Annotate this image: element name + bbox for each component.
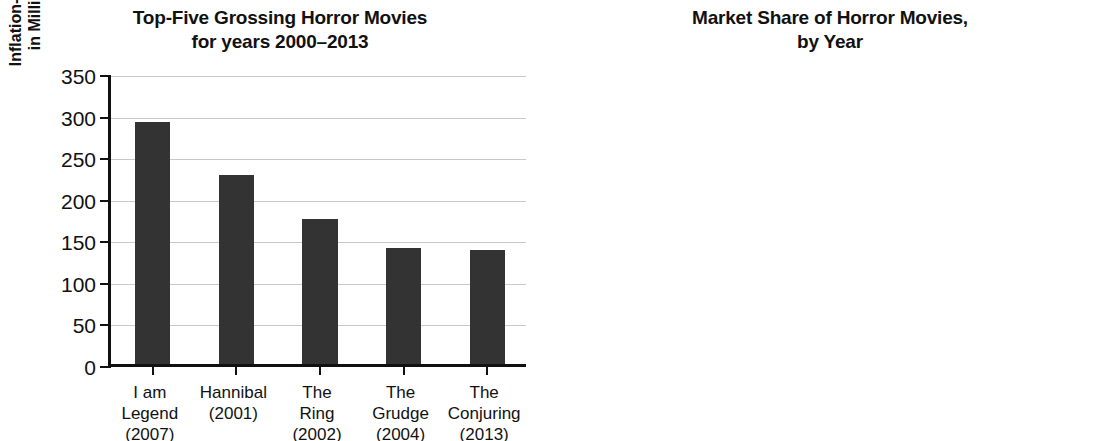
- y-axis-tick-label: 350: [61, 66, 96, 87]
- bar: [386, 248, 421, 364]
- left-chart-y-axis-label: Inflation-adjusted Gross, in Millions of…: [6, 0, 46, 116]
- gridline: [111, 76, 526, 77]
- gridline: [111, 201, 526, 202]
- y-axis-tick-label: 150: [61, 232, 96, 253]
- right-chart-title: Market Share of Horror Movies, by Year: [580, 6, 1080, 54]
- y-axis-tick: [100, 324, 111, 326]
- x-axis-tick: [403, 364, 405, 375]
- x-axis-tick: [319, 364, 321, 375]
- bar: [470, 250, 505, 364]
- y-axis-tick: [100, 366, 111, 368]
- x-axis-label: The Ring (2002): [275, 382, 359, 441]
- y-axis-tick-label: 200: [61, 190, 96, 211]
- chart-figure: Top-Five Grossing Horror Movies for year…: [0, 0, 1095, 441]
- gridline: [111, 159, 526, 160]
- right-chart-panel: Market Share of Horror Movies, by Year 0…: [560, 0, 1095, 441]
- y-axis-tick: [100, 200, 111, 202]
- x-axis-tick: [486, 364, 488, 375]
- bar: [302, 219, 337, 364]
- x-axis-label: Hannibal (2001): [192, 382, 276, 424]
- x-axis-label: I am Legend (2007): [108, 382, 192, 441]
- y-axis-tick-label: 100: [61, 273, 96, 294]
- x-axis-label: The Grudge (2004): [359, 382, 443, 441]
- left-chart-panel: Top-Five Grossing Horror Movies for year…: [0, 0, 560, 441]
- bar: [135, 122, 170, 364]
- x-axis-label: The Conjuring (2013): [442, 382, 526, 441]
- y-axis-tick: [100, 75, 111, 77]
- y-axis-tick-label: 300: [61, 107, 96, 128]
- y-axis-tick: [100, 241, 111, 243]
- y-axis-tick-label: 250: [61, 149, 96, 170]
- x-axis-tick: [235, 364, 237, 375]
- y-axis-tick: [100, 283, 111, 285]
- y-axis-tick: [100, 117, 111, 119]
- left-chart-plot-area: 050100150200250300350: [108, 76, 526, 367]
- gridline: [111, 118, 526, 119]
- bar: [219, 175, 254, 364]
- left-chart-title: Top-Five Grossing Horror Movies for year…: [40, 6, 520, 54]
- y-axis-tick-label: 0: [84, 357, 96, 378]
- y-axis-tick: [100, 158, 111, 160]
- y-axis-tick-label: 50: [73, 315, 96, 336]
- x-axis-tick: [152, 364, 154, 375]
